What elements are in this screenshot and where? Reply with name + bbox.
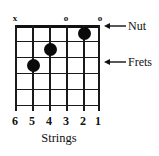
fretboard-grid	[15, 25, 100, 105]
nut-label: Nut	[128, 20, 146, 32]
string-line-6	[15, 25, 17, 111]
string-number-3: 3	[59, 114, 73, 128]
fret-line-1	[15, 41, 100, 42]
string-line-3	[66, 25, 68, 111]
fret-line-5	[15, 105, 100, 106]
fret-line-3	[15, 73, 100, 74]
nut-callout: Nut	[104, 20, 146, 32]
finger-dot-string2-fret1	[78, 27, 91, 40]
string-number-4: 4	[42, 114, 56, 128]
frets-label: Frets	[128, 56, 152, 68]
string-marker-6: x	[9, 13, 21, 23]
string-number-1: 1	[91, 114, 105, 128]
guitar-chord-diagram: x o o 6 5 4 3 2 1 Strings Nut	[0, 0, 159, 156]
finger-dot-string4-fret2	[44, 43, 57, 56]
left-arrow-icon	[104, 57, 126, 67]
frets-callout: Frets	[104, 56, 152, 68]
string-number-6: 6	[8, 114, 22, 128]
string-number-2: 2	[76, 114, 90, 128]
strings-caption: Strings	[0, 131, 118, 145]
finger-dot-string5-fret3	[27, 59, 40, 72]
string-line-1	[98, 25, 100, 111]
string-marker-3: o	[60, 13, 72, 23]
fret-line-2	[15, 57, 100, 58]
fret-line-4	[15, 89, 100, 90]
string-line-4	[49, 25, 51, 111]
left-arrow-icon	[104, 21, 126, 31]
string-number-5: 5	[25, 114, 39, 128]
